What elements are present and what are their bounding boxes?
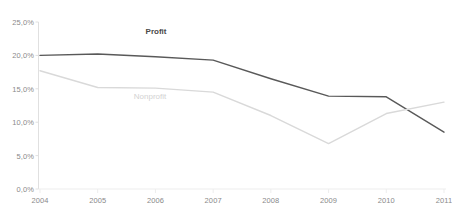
x-tick-label: 2005 (89, 196, 106, 205)
x-tick-label: 2007 (205, 196, 222, 205)
x-tick-label: 2006 (147, 196, 164, 205)
x-tick-label: 2009 (320, 196, 337, 205)
x-tick-label: 2011 (436, 196, 452, 205)
x-tick-label: 2010 (378, 196, 395, 205)
x-tick-label: 2008 (262, 196, 279, 205)
x-tick-label: 2004 (31, 196, 48, 205)
series-label-nonprofit: Nonprofit (134, 92, 166, 101)
series-label-profit: Profit (146, 27, 167, 36)
